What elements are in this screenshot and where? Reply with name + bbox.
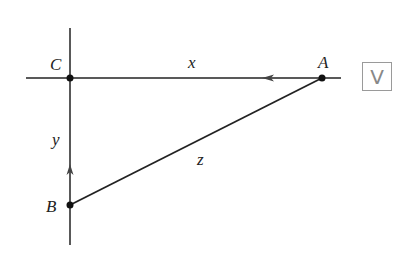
point-c xyxy=(67,75,74,82)
label-x: x xyxy=(187,53,196,72)
label-z: z xyxy=(196,150,204,169)
label-y: y xyxy=(50,130,60,149)
video-icon[interactable]: V xyxy=(362,62,392,91)
label-b: B xyxy=(46,197,57,216)
label-c: C xyxy=(50,55,62,74)
hypotenuse-z xyxy=(70,78,322,205)
label-a: A xyxy=(317,53,329,72)
right-triangle-diagram: C A B x y z xyxy=(0,0,401,253)
point-a xyxy=(319,75,326,82)
point-b xyxy=(67,202,74,209)
